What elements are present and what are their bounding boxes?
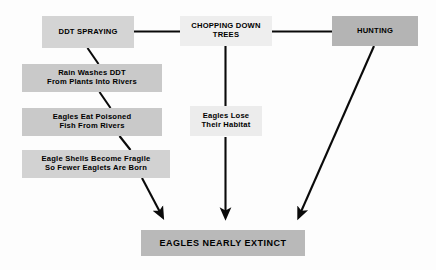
node-eagles-nearly-extinct: EAGLES NEARLY EXTINCT	[141, 230, 305, 256]
edge-rain-to-fish	[100, 92, 111, 108]
node-hunting: HUNTING	[332, 16, 418, 46]
node-rain-washes-ddt: Rain Washes DDT From Plants Into Rivers	[22, 64, 162, 92]
node-chopping-down-trees: CHOPPING DOWN TREES	[180, 16, 272, 46]
node-eagles-lose-habitat: Eagles Lose Their Habitat	[190, 106, 262, 136]
node-ddt-spraying: DDT SPRAYING	[42, 16, 134, 48]
edge-ddt-to-rain	[88, 48, 99, 64]
edge-fish-to-shells	[120, 136, 131, 150]
node-eagles-eat-poisoned-fish: Eagles Eat Poisoned Fish From Rivers	[22, 108, 162, 136]
edge-shells-to-extinct	[142, 178, 161, 214]
flowchart-canvas: DDT SPRAYING CHOPPING DOWN TREES HUNTING…	[0, 0, 436, 270]
edge-hunting-to-extinct	[300, 46, 374, 214]
node-eagle-shells-fragile: Eagle Shells Become Fragile So Fewer Eag…	[22, 150, 170, 178]
